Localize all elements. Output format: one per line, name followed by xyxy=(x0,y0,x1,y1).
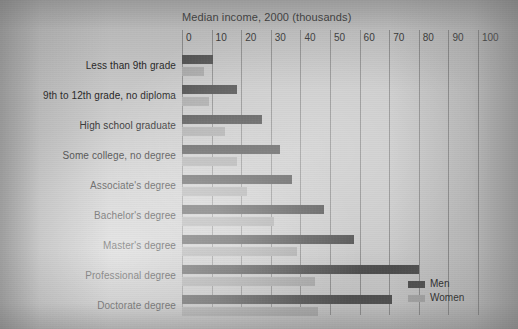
bar-men-row-4 xyxy=(182,175,292,184)
legend-item-men: Men xyxy=(408,277,464,291)
category-label-5: Bachelor's degree xyxy=(94,210,176,221)
chart-page: Median income, 2000 (thousands) Less tha… xyxy=(0,0,518,329)
category-label-7: Professional degree xyxy=(85,270,176,281)
bar-men-row-2 xyxy=(182,115,262,124)
plot-area: 0102030405060708090100 xyxy=(182,30,478,315)
x-tick-label-20: 20 xyxy=(245,32,256,43)
bar-women-row-5 xyxy=(182,217,274,226)
x-tick-label-0: 0 xyxy=(186,32,192,43)
gridline-80 xyxy=(419,30,420,315)
category-label-6: Master's degree xyxy=(103,240,176,251)
bar-women-row-0 xyxy=(182,67,204,76)
category-label-0: Less than 9th grade xyxy=(86,60,176,71)
bar-men-row-5 xyxy=(182,205,324,214)
legend-label-men: Men xyxy=(430,279,449,289)
bar-women-row-7 xyxy=(182,277,315,286)
bar-women-row-3 xyxy=(182,157,237,166)
legend-swatch-women-icon xyxy=(408,295,425,302)
x-tick-label-50: 50 xyxy=(334,32,345,43)
chart-legend: Men Women xyxy=(408,277,464,305)
bar-women-row-4 xyxy=(182,187,247,196)
bar-women-row-1 xyxy=(182,97,209,106)
category-label-3: Some college, no degree xyxy=(63,150,177,161)
category-label-2: High school graduate xyxy=(79,120,176,131)
bar-men-row-7 xyxy=(182,265,419,274)
gridline-100 xyxy=(478,30,479,315)
legend-item-women: Women xyxy=(408,291,464,305)
x-tick-label-90: 90 xyxy=(452,32,463,43)
x-tick-label-40: 40 xyxy=(304,32,315,43)
category-label-1: 9th to 12th grade, no diploma xyxy=(43,90,176,101)
bar-men-row-0 xyxy=(182,55,213,64)
x-tick-label-100: 100 xyxy=(482,32,499,43)
chart-title: Median income, 2000 (thousands) xyxy=(182,11,351,23)
x-tick-label-10: 10 xyxy=(216,32,227,43)
gridline-90 xyxy=(448,30,449,315)
bar-men-row-3 xyxy=(182,145,280,154)
bar-men-row-1 xyxy=(182,85,237,94)
bar-women-row-6 xyxy=(182,247,297,256)
bar-chart: Median income, 2000 (thousands) Less tha… xyxy=(0,0,518,329)
category-label-8: Doctorate degree xyxy=(97,300,176,311)
x-tick-label-60: 60 xyxy=(364,32,375,43)
legend-swatch-men-icon xyxy=(408,281,425,288)
x-tick-label-70: 70 xyxy=(393,32,404,43)
x-tick-label-30: 30 xyxy=(275,32,286,43)
category-label-4: Associate's degree xyxy=(90,180,176,191)
bar-women-row-8 xyxy=(182,307,318,316)
legend-label-women: Women xyxy=(430,293,464,303)
category-axis: Less than 9th grade9th to 12th grade, no… xyxy=(0,30,176,315)
bar-men-row-6 xyxy=(182,235,354,244)
x-tick-label-80: 80 xyxy=(423,32,434,43)
bar-women-row-2 xyxy=(182,127,225,136)
bar-men-row-8 xyxy=(182,295,392,304)
